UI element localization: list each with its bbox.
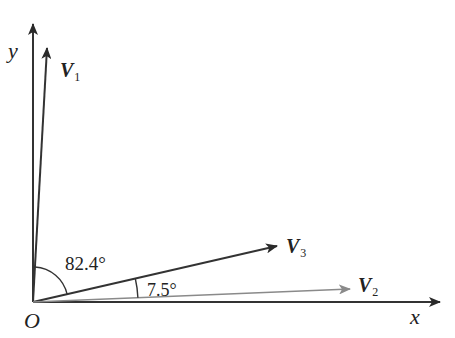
y-axis-label: y xyxy=(8,40,18,62)
label-v1: V1 xyxy=(60,60,79,80)
v1-name: V xyxy=(60,59,73,81)
diagram-canvas xyxy=(0,0,455,338)
v3-name: V xyxy=(286,235,299,257)
angle-arc-7-5 xyxy=(135,279,138,298)
label-v2: V2 xyxy=(358,275,377,295)
vector-v1 xyxy=(33,48,47,302)
angle-arc-82-4 xyxy=(35,267,67,294)
label-v3: V3 xyxy=(286,236,305,256)
vector-diagram: y x O V1 V3 V2 82.4° 7.5° xyxy=(0,0,455,338)
angle-label-7-5: 7.5° xyxy=(147,281,177,299)
x-axis-label: x xyxy=(410,306,420,328)
angle-label-82-4: 82.4° xyxy=(65,254,106,273)
origin-label: O xyxy=(24,310,40,332)
v1-subscript: 1 xyxy=(74,70,80,84)
v2-subscript: 2 xyxy=(372,285,378,299)
v2-name: V xyxy=(358,274,371,296)
v3-subscript: 3 xyxy=(300,246,306,260)
